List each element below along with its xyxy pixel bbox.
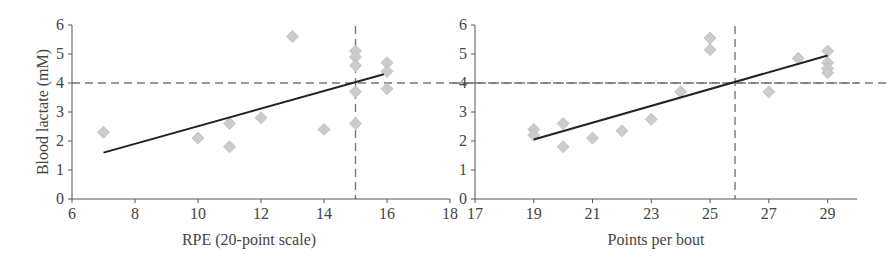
data-point [224,141,236,153]
data-point [587,132,599,144]
data-point [318,123,330,135]
data-point [616,125,628,137]
y-tick-label: 6 [56,16,64,33]
data-point [704,44,716,56]
y-tick-label: 4 [56,74,64,91]
y-tick-label: 1 [459,161,467,178]
y-tick-label: 2 [56,132,64,149]
x-tick-label: 23 [643,205,659,222]
data-point [192,132,204,144]
y-tick-label: 4 [459,74,467,91]
data-point [255,112,267,124]
trend-line [534,55,828,139]
data-point [287,31,299,43]
data-point [557,141,569,153]
x-tick-label: 6 [68,205,76,222]
points-lactate-chart: 012345617192123252729Points per bout [452,16,858,249]
x-tick-label: 14 [316,205,332,222]
data-point [350,86,362,98]
x-tick-label: 18 [442,205,458,222]
data-point [704,32,716,44]
y-tick-label: 0 [56,190,64,207]
x-tick-label: 29 [820,205,836,222]
figure: 0123456681012141618RPE (20-point scale)B… [0,0,891,266]
x-tick-label: 25 [702,205,718,222]
data-point [645,113,657,125]
data-point [350,60,362,72]
y-tick-label: 1 [56,161,64,178]
y-tick-label: 3 [56,103,64,120]
x-tick-label: 21 [585,205,601,222]
trend-line [104,74,384,152]
y-tick-label: 0 [459,190,467,207]
x-tick-label: 27 [761,205,777,222]
data-point [381,83,393,95]
y-tick-label: 5 [56,45,64,62]
y-tick-label: 6 [459,16,467,33]
x-tick-label: 16 [379,205,395,222]
y-axis-title: Blood lactate (mM) [34,49,52,175]
data-point [822,45,834,57]
x-tick-label: 10 [190,205,206,222]
data-point [350,118,362,130]
y-tick-label: 5 [459,45,467,62]
x-tick-label: 17 [467,205,483,222]
data-point [98,126,110,138]
x-tick-label: 12 [253,205,269,222]
data-point [557,118,569,130]
y-tick-label: 2 [459,132,467,149]
y-tick-label: 3 [459,103,467,120]
x-axis-title: Points per bout [608,231,705,249]
x-axis-title: RPE (20-point scale) [182,231,316,249]
x-tick-label: 19 [526,205,542,222]
data-point [763,86,775,98]
x-tick-label: 8 [131,205,139,222]
